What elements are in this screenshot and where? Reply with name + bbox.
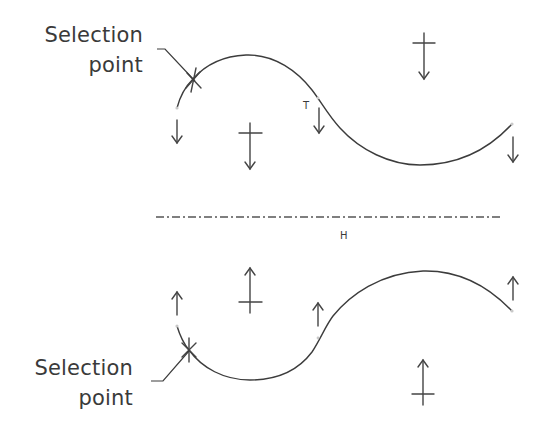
top-figure — [157, 33, 518, 169]
bottom-arrow-up-left — [172, 292, 182, 315]
tangent-label: T — [303, 101, 309, 111]
bottom-curve — [177, 271, 512, 380]
top-arrow-down-right — [508, 137, 518, 162]
bottom-cross-arrow-up-middle — [239, 268, 262, 313]
bottom-curve-start-point — [175, 324, 178, 327]
top-selection-label-line2: point — [30, 50, 143, 80]
top-cross-arrow-down-middle — [239, 123, 262, 169]
top-tangent-point — [317, 97, 320, 100]
bottom-figure — [151, 268, 518, 405]
top-curve-end-point — [510, 122, 513, 125]
top-selection-label-line1: Selection — [30, 20, 143, 50]
bottom-tangent-point — [317, 337, 320, 340]
top-arrow-down-left — [172, 120, 182, 143]
bottom-arrow-up-right — [508, 277, 518, 300]
axis-label: H — [340, 231, 348, 241]
bottom-cross-arrow-up-right — [412, 360, 434, 405]
bottom-tangent-arrow-up — [313, 303, 323, 326]
top-selection-label: Selection point — [30, 20, 143, 80]
bottom-curve-end-point — [510, 309, 513, 312]
top-curve — [177, 55, 512, 165]
bottom-selection-label-line2: point — [20, 383, 133, 413]
top-cross-arrow-down-right — [413, 33, 435, 79]
diagram-canvas: Selection point T H Selection point — [0, 0, 559, 433]
bottom-selection-label-line1: Selection — [20, 353, 133, 383]
bottom-selection-label: Selection point — [20, 353, 133, 413]
top-curve-start-point — [175, 106, 178, 109]
top-tangent-arrow-down — [314, 108, 324, 133]
